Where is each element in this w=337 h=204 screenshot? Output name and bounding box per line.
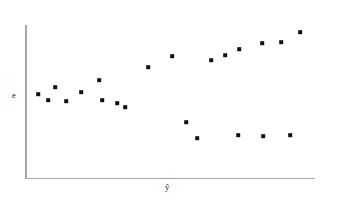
data-point [260,41,264,45]
data-point [64,99,68,103]
data-point [298,30,302,34]
data-point [146,65,150,69]
data-point [46,98,50,102]
data-point [97,78,101,82]
data-point [53,85,57,89]
data-point [195,136,199,140]
data-point [36,92,40,96]
data-point [115,101,119,105]
y-axis-line [25,25,27,179]
data-point [123,105,127,109]
x-axis-line [25,178,315,180]
data-point [223,53,227,57]
data-point [100,98,104,102]
data-point [170,54,174,58]
data-point [237,47,241,51]
data-point [261,134,265,138]
data-point [279,40,283,44]
residual-plot-figure: e ŷ [0,0,337,204]
data-point [288,133,292,137]
data-point [236,133,240,137]
x-axis-label: ŷ [165,183,170,192]
data-point [184,120,188,124]
data-point [209,58,213,62]
data-point [79,90,83,94]
plot-area: e ŷ [0,0,337,204]
y-axis-label: e [12,91,16,100]
